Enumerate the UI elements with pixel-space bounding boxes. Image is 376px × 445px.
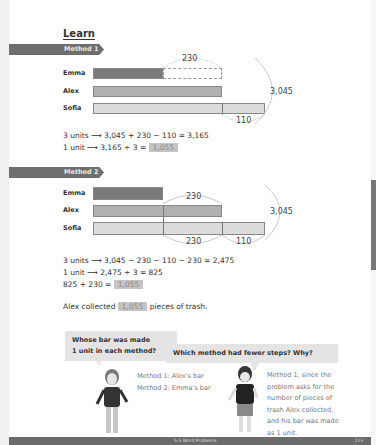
answer-1: Method 1: Alex's bar Method 2: Emma's ba… xyxy=(137,371,211,394)
emma-bar xyxy=(93,187,163,200)
label-110: 110 xyxy=(236,116,251,125)
footer-section: 5-5 Word Problems xyxy=(174,437,217,445)
method-2-step-3: 825 + 230 = 1,055 xyxy=(63,280,143,289)
sofia-bar xyxy=(93,222,265,235)
label-3045: 3,045 xyxy=(270,207,293,216)
bar-divider xyxy=(222,222,223,235)
label-230-top: 230 xyxy=(186,192,201,201)
answer-2: Method 1, since the problem asks for the… xyxy=(267,370,339,439)
method-2-banner: Method 2 xyxy=(9,167,104,178)
student-girl-illustration xyxy=(92,366,132,438)
label-230-bottom: 230 xyxy=(186,237,201,246)
method-2-label: Method 2 xyxy=(64,167,99,178)
question-bubble-1: Whose bar was made 1 unit in each method… xyxy=(65,331,177,361)
answer-box: 1,055 xyxy=(118,302,147,311)
answer-box: 1,055 xyxy=(114,280,143,289)
answer-box: 1,055 xyxy=(149,143,178,152)
method-1-step-2: 1 unit ⟶ 3,165 ÷ 3 = 1,055 xyxy=(63,143,178,152)
student-boy-illustration xyxy=(225,364,265,438)
method-2-step-1: 3 units ⟶ 3,045 − 230 − 110 − 230 = 2,47… xyxy=(63,256,234,265)
label-3045: 3,045 xyxy=(270,87,293,96)
label-110: 110 xyxy=(236,237,251,246)
bar-label-emma: Emma xyxy=(63,189,85,197)
page-footer: 5-5 Word Problems 123 xyxy=(9,437,371,445)
method-2-step-2: 1 unit ⟶ 2,475 ÷ 3 = 825 xyxy=(63,268,163,277)
bar-label-alex: Alex xyxy=(63,206,79,214)
question-bubble-2: Which method had fewer steps? Why? xyxy=(166,344,338,363)
conclusion: Alex collected 1,055 pieces of trash. xyxy=(63,302,208,311)
method-1-step-1: 3 units ⟶ 3,045 + 230 − 110 = 3,165 xyxy=(63,131,209,140)
alex-bar xyxy=(93,205,222,217)
label-230: 230 xyxy=(182,54,197,63)
bar-divider xyxy=(163,205,164,235)
bar-label-sofia: Sofia xyxy=(63,224,81,232)
page-number: 123 xyxy=(354,437,363,445)
